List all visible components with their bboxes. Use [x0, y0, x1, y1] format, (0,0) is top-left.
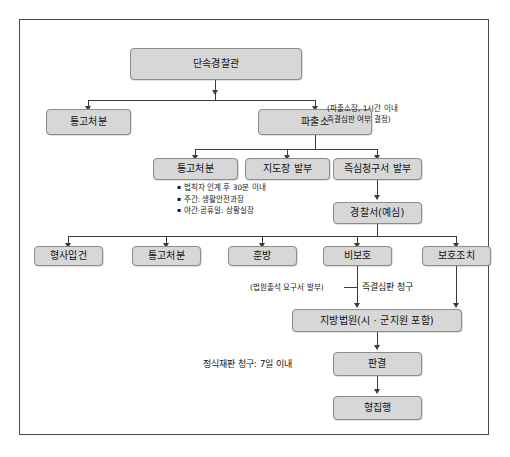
- diagram-canvas: 단속경찰관 통고처분 파출소 통고처분 지도장 발부 즉심청구서 발부 경찰서(…: [0, 0, 510, 457]
- node-label: 형사입건: [50, 250, 87, 262]
- node-label: 통고처분: [148, 250, 185, 262]
- note-substation-chief: (파출소장, 1시간 이내 즉결심판 여부 결정): [327, 104, 477, 126]
- connector-bus-top-stem: [215, 80, 216, 100]
- arrow-n11-to-n13: [354, 303, 360, 308]
- connector-n11-to-n13: [357, 266, 358, 305]
- arrow-n6-to-n7: [374, 195, 380, 200]
- node-label: 훈방: [253, 250, 271, 262]
- node-judgment[interactable]: 판결: [333, 352, 422, 376]
- node-label: 지도장 발부: [263, 163, 312, 175]
- edge-label-formal-trial-request: 정식재판 청구: 7일 이내: [203, 359, 292, 371]
- node-label: 지방법원(시 · 군지원 포함): [320, 315, 434, 327]
- node-notification-disposition-1[interactable]: 통고처분: [46, 109, 131, 135]
- connector-bus-top: [88, 100, 316, 101]
- node-label: 파출소: [301, 116, 329, 128]
- node-enforcement-officer[interactable]: 단속경찰관: [130, 48, 302, 80]
- bullet-item-2: 주간: 생활안전과장: [177, 194, 312, 206]
- node-label: 비보호: [344, 250, 372, 262]
- arrow-n14-to-n15: [374, 389, 380, 394]
- node-police-station-preliminary[interactable]: 경찰서(예심): [333, 202, 422, 224]
- note-court-attendance-request: (법원출석 요구서 발부): [250, 283, 346, 294]
- node-label: 통고처분: [70, 116, 107, 128]
- node-district-court[interactable]: 지방법원(시 · 군지원 포함): [292, 309, 462, 332]
- node-label: 경찰서(예심): [350, 207, 404, 219]
- node-sentence-execution[interactable]: 형집행: [333, 396, 422, 420]
- node-label: 통고처분: [177, 163, 214, 175]
- connector-n7-down: [377, 224, 378, 236]
- node-label: 보호조치: [438, 250, 475, 262]
- connector-bus-mid: [195, 149, 377, 150]
- connector-n12-to-n13: [456, 266, 457, 305]
- node-notification-disposition-2[interactable]: 통고처분: [153, 158, 238, 180]
- node-guidance-issuance[interactable]: 지도장 발부: [245, 158, 330, 180]
- node-criminal-charge[interactable]: 형사입건: [34, 246, 103, 266]
- node-label: 즉심청구서 발부: [344, 163, 412, 175]
- node-label: 단속경찰관: [193, 58, 239, 70]
- node-protective-measure[interactable]: 보호조치: [422, 246, 491, 266]
- bullet-list-guidance: 법칙자 인계 후 30분 이내 주간: 생활안전과장 야간·공휴일: 상황실장: [177, 182, 312, 217]
- node-summary-claim-issuance[interactable]: 즉심청구서 발부: [333, 158, 422, 180]
- node-label: 형집행: [364, 402, 392, 414]
- bullet-item-3: 야간·공휴일: 상황실장: [177, 205, 312, 217]
- node-non-protection[interactable]: 비보호: [323, 246, 392, 266]
- arrow-n12-to-n13: [453, 303, 459, 308]
- node-release-with-warning[interactable]: 훈방: [228, 246, 297, 266]
- node-label: 판결: [368, 358, 386, 370]
- bullet-item-1: 법칙자 인계 후 30분 이내: [177, 182, 312, 194]
- arrow-n13-to-n14: [374, 345, 380, 350]
- node-notification-disposition-3[interactable]: 통고처분: [132, 246, 201, 266]
- edge-label-summary-judgment-request: 즉결심판 청구: [362, 282, 413, 294]
- connector-n3-down: [315, 135, 316, 149]
